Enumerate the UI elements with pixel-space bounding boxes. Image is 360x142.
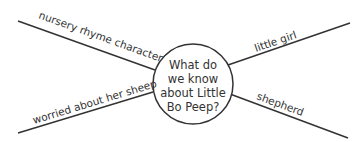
center-question-line-1: What do [169,58,217,72]
spoke-label-bottom-right: shepherd [255,90,305,118]
spoke-label-bottom-left: worried about her sheep [31,77,158,126]
spoke-label-top-right: little girl [253,28,298,54]
center-question-line-2: we know [168,72,219,86]
center-question-line-3: about Little [160,86,226,100]
spoke-label-top-left: nursery rhyme character [37,9,165,65]
center-question-line-4: Bo Peep? [167,100,220,114]
concept-web-diagram: nursery rhyme character little girl worr… [0,0,360,142]
